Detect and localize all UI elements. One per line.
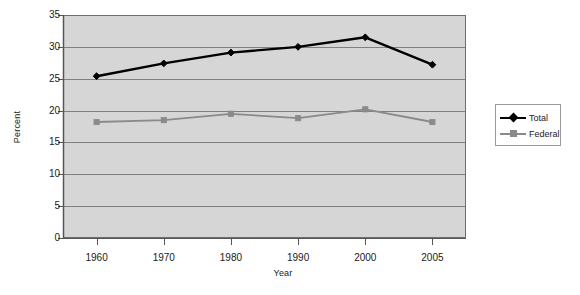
y-tick-label: 25 — [34, 74, 60, 84]
y-tick-label: 35 — [34, 10, 60, 20]
plot-background — [63, 15, 466, 238]
legend-swatch-federal — [500, 129, 526, 139]
data-point-federal-1980 — [228, 111, 233, 116]
legend-item-federal: Federal — [500, 126, 560, 142]
y-tick-label: 5 — [34, 201, 60, 211]
data-point-federal-2000 — [363, 107, 368, 112]
y-axis-title: Percent — [12, 97, 22, 157]
data-point-federal-2005 — [430, 119, 435, 124]
line-chart: 05101520253035 196019701980199020002005 … — [0, 0, 580, 295]
y-tick-label: 0 — [34, 233, 60, 243]
diamond-marker-icon — [509, 113, 519, 123]
x-axis-title: Year — [243, 268, 323, 278]
legend-swatch-total — [500, 113, 526, 123]
legend-item-total: Total — [500, 110, 548, 126]
y-tick-label: 10 — [34, 169, 60, 179]
plot-area — [0, 0, 580, 295]
legend-label-total: Total — [529, 113, 548, 123]
data-point-federal-1990 — [295, 116, 300, 121]
legend: Total Federal — [495, 104, 561, 146]
y-axis-tick-labels: 05101520253035 — [30, 0, 60, 295]
x-tick-label: 1980 — [206, 252, 256, 263]
y-tick-label: 20 — [34, 106, 60, 116]
x-tick-label: 1960 — [72, 252, 122, 263]
data-point-federal-1970 — [161, 118, 166, 123]
x-tick-label: 2005 — [407, 252, 457, 263]
x-tick-label: 1970 — [139, 252, 189, 263]
square-marker-icon — [510, 130, 517, 137]
legend-label-federal: Federal — [529, 129, 560, 139]
y-tick-label: 30 — [34, 42, 60, 52]
y-tick-label: 15 — [34, 137, 60, 147]
x-tick-label: 1990 — [273, 252, 323, 263]
x-tick-label: 2000 — [340, 252, 390, 263]
data-point-federal-1960 — [94, 119, 99, 124]
